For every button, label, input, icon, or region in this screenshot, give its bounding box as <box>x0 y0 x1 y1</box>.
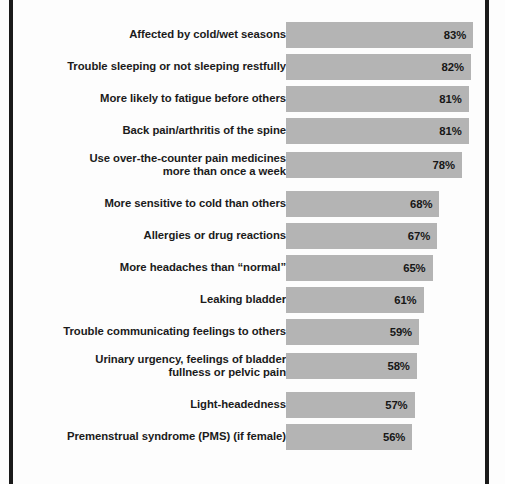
bar-row: Allergies or drug reactions67% <box>14 223 485 249</box>
bar-track: 68% <box>286 191 439 217</box>
bar-track: 57% <box>286 392 415 418</box>
bar-category-label: Trouble communicating feelings to others <box>18 325 286 338</box>
bar-row: More likely to fatigue before others81% <box>14 86 485 112</box>
chart-frame: Affected by cold/wet seasons83%Trouble s… <box>0 0 505 484</box>
bar-value-label: 82% <box>442 61 464 73</box>
bar-value-label: 65% <box>403 262 425 274</box>
bar-track: 82% <box>286 54 471 80</box>
bar: 61% <box>286 287 424 313</box>
bar: 82% <box>286 54 471 80</box>
bar-value-label: 67% <box>408 230 430 242</box>
bar-value-label: 83% <box>444 29 466 41</box>
bar-category-label: Trouble sleeping or not sleeping restful… <box>18 60 286 73</box>
bar: 78% <box>286 152 462 178</box>
bar-value-label: 58% <box>387 360 409 372</box>
bar: 68% <box>286 191 439 217</box>
bar-value-label: 68% <box>410 198 432 210</box>
bar-row: More sensitive to cold than others68% <box>14 191 485 217</box>
bar-category-label: Back pain/arthritis of the spine <box>18 124 286 137</box>
frame-border-left <box>9 0 13 484</box>
bar-row: Urinary urgency, feelings of bladder ful… <box>14 353 485 379</box>
bar-row: More headaches than “normal”65% <box>14 255 485 281</box>
bar-category-label: Urinary urgency, feelings of bladder ful… <box>18 353 286 379</box>
bar-track: 81% <box>286 118 469 144</box>
bar-value-label: 78% <box>433 159 455 171</box>
bar-row: Trouble communicating feelings to others… <box>14 319 485 345</box>
bar: 83% <box>286 22 473 48</box>
bar-value-label: 59% <box>390 326 412 338</box>
bar-track: 67% <box>286 223 437 249</box>
bar: 58% <box>286 353 417 379</box>
bar-track: 61% <box>286 287 424 313</box>
bar-value-label: 56% <box>383 431 405 443</box>
bar-row: Trouble sleeping or not sleeping restful… <box>14 54 485 80</box>
bar-category-label: Leaking bladder <box>18 293 286 306</box>
bar-row: Use over-the-counter pain medicines more… <box>14 152 485 178</box>
bar-row: Premenstrual syndrome (PMS) (if female)5… <box>14 424 485 450</box>
bar-row: Affected by cold/wet seasons83% <box>14 22 485 48</box>
bar-value-label: 81% <box>439 93 461 105</box>
bar: 65% <box>286 255 433 281</box>
bar-row: Light-headedness57% <box>14 392 485 418</box>
bar-track: 78% <box>286 152 462 178</box>
bar-value-label: 61% <box>394 294 416 306</box>
bar: 59% <box>286 319 419 345</box>
bar-track: 65% <box>286 255 433 281</box>
bar-category-label: Affected by cold/wet seasons <box>18 28 286 41</box>
bar-category-label: Allergies or drug reactions <box>18 229 286 242</box>
bar-row: Back pain/arthritis of the spine81% <box>14 118 485 144</box>
horizontal-bar-chart: Affected by cold/wet seasons83%Trouble s… <box>14 0 485 484</box>
bar-row: Leaking bladder61% <box>14 287 485 313</box>
bar-category-label: Use over-the-counter pain medicines more… <box>18 152 286 178</box>
bar-track: 56% <box>286 424 412 450</box>
bar-track: 81% <box>286 86 469 112</box>
bar-category-label: Light-headedness <box>18 398 286 411</box>
bar-category-label: Premenstrual syndrome (PMS) (if female) <box>18 430 286 443</box>
bar-value-label: 81% <box>439 125 461 137</box>
bar: 56% <box>286 424 412 450</box>
bar-track: 83% <box>286 22 473 48</box>
bar-track: 58% <box>286 353 417 379</box>
bar-track: 59% <box>286 319 419 345</box>
bar: 57% <box>286 392 415 418</box>
bar-category-label: More headaches than “normal” <box>18 261 286 274</box>
bar-value-label: 57% <box>385 399 407 411</box>
bar: 81% <box>286 86 469 112</box>
bar: 67% <box>286 223 437 249</box>
frame-border-right <box>485 0 489 484</box>
bar: 81% <box>286 118 469 144</box>
bar-category-label: More sensitive to cold than others <box>18 197 286 210</box>
bar-category-label: More likely to fatigue before others <box>18 92 286 105</box>
